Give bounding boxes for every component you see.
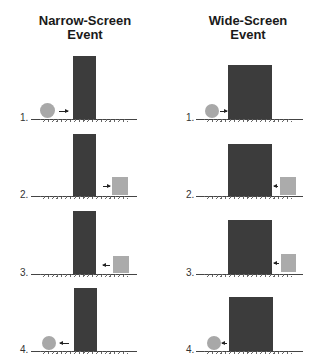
ground-hatch: [40, 351, 128, 354]
ball: [207, 336, 221, 350]
narrow-screen: [73, 56, 96, 119]
narrow-screen: [74, 288, 97, 351]
wide-screen: [228, 65, 272, 119]
wide-screen: [229, 297, 273, 351]
narrow-step-2: 2.: [0, 113, 155, 198]
narrow-step-3: 3.: [0, 190, 155, 275]
wide-step-4: 4.: [160, 266, 315, 351]
arrow-left-icon: [60, 343, 69, 344]
wide-step-2: 2.: [160, 113, 315, 198]
wide-screen-panel: 1. 2. 3. 4.: [160, 0, 315, 363]
arrow-right-icon: [59, 111, 68, 112]
wide-screen: [228, 144, 272, 196]
step-label: 4.: [20, 344, 28, 355]
step-label: 4.: [186, 344, 194, 355]
arrow-left-icon: [274, 263, 279, 264]
narrow-screen-panel: 1. 2. 3. 4.: [0, 0, 160, 363]
ground-hatch: [204, 351, 292, 354]
narrow-screen: [73, 134, 96, 196]
narrow-step-4: 4.: [0, 266, 155, 351]
narrow-screen: [73, 211, 96, 274]
arrow-right-icon: [220, 111, 227, 112]
wide-step-3: 3.: [160, 190, 315, 275]
arrow-right-icon: [103, 186, 110, 187]
arrow-left-icon: [222, 343, 227, 344]
arrow-left-icon: [274, 186, 278, 187]
ball: [42, 336, 56, 350]
wide-step-1: 1.: [160, 35, 315, 120]
narrow-step-1: 1.: [0, 35, 155, 120]
